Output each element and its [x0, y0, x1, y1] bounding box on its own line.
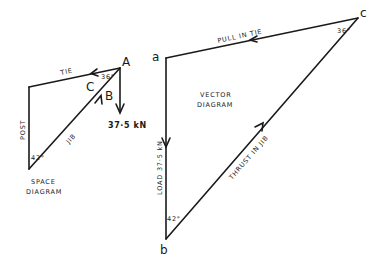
post-label: POST: [19, 120, 27, 140]
jib-label: JIB: [64, 132, 78, 146]
angle-b-label: 42°: [167, 215, 181, 223]
load-value-label: 37·5 kN: [108, 121, 147, 130]
jib-arrow-icon: [95, 96, 102, 105]
node-a-label: A: [122, 55, 131, 69]
force-diagrams: A C B 36° 42° TIE POST JIB 37·5 kN SPACE…: [0, 0, 384, 267]
region-b-label: B: [105, 89, 113, 103]
angle-c-label: 36°: [337, 27, 351, 35]
vector-diagram: a b c 36° 42° PULL IN TIE LOAD 37·5 kN T…: [152, 6, 367, 257]
tie-label: TIE: [59, 67, 74, 78]
angle-a-label: 36°: [101, 73, 115, 81]
vector-diagram-title-2: DIAGRAM: [197, 101, 233, 109]
jib-vector-arrow-icon: [255, 123, 263, 131]
thrust-in-jib-label: THRUST IN JIB: [227, 134, 270, 182]
space-diagram: A C B 36° 42° TIE POST JIB 37·5 kN SPACE…: [19, 55, 147, 196]
region-c-label: C: [86, 80, 94, 94]
vertex-a-label: a: [152, 50, 159, 64]
vector-diagram-title-1: VECTOR: [200, 91, 232, 99]
vertex-c-label: c: [360, 6, 367, 20]
space-diagram-title-1: SPACE: [31, 178, 56, 186]
load-side-label: LOAD 37·5 kN: [156, 140, 164, 195]
angle-base-label: 42°: [31, 154, 45, 162]
space-diagram-title-2: DIAGRAM: [26, 188, 62, 196]
vertex-b-label: b: [160, 243, 168, 257]
